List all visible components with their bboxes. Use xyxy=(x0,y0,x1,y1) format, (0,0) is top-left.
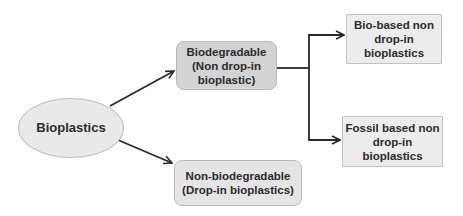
node-bio-based: Bio-based non drop-in bioplastics xyxy=(346,14,442,64)
arrow-to-bio-based xyxy=(309,35,344,68)
node-biodegradable-label: Biodegradable (Non drop-in bioplastic) xyxy=(187,45,267,87)
arrow-to-fossil-based xyxy=(309,68,340,140)
node-bio-based-label: Bio-based non drop-in bioplastics xyxy=(354,18,434,60)
node-biodegradable: Biodegradable (Non drop-in bioplastic) xyxy=(176,41,277,90)
node-non-biodegradable-label: Non-biodegradable (Drop-in bioplastics) xyxy=(182,169,294,197)
node-non-biodegradable: Non-biodegradable (Drop-in bioplastics) xyxy=(174,160,302,206)
node-bioplastics: Bioplastics xyxy=(18,98,124,158)
arrow-root-to-biodegradable xyxy=(110,71,174,106)
node-fossil-based-label: Fossil based non drop-in bioplastics xyxy=(346,121,440,163)
node-bioplastics-label: Bioplastics xyxy=(36,121,105,135)
node-fossil-based: Fossil based non drop-in bioplastics xyxy=(342,116,443,167)
arrow-root-to-non-biodegradable xyxy=(118,140,172,163)
